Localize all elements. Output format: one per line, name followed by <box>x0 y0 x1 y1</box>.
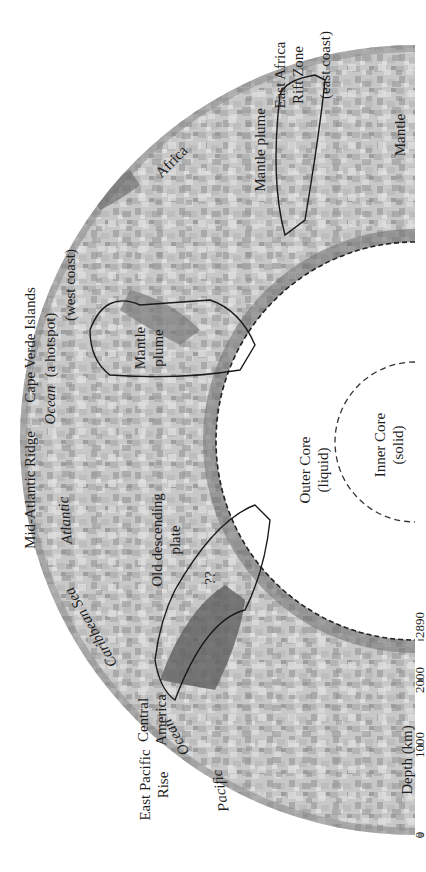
mantle-label: Mantle <box>392 113 408 156</box>
west-coast-label: (west coast) <box>62 249 79 321</box>
cape-verde-label-2: (a hotspot) <box>42 313 59 378</box>
depth-tick-0: 0 <box>412 832 426 839</box>
old-plate-label-1: Old descending <box>149 493 165 587</box>
atlantic-plume-label-1: Mantle <box>132 326 148 369</box>
depth-tick-1000: 1000 <box>412 732 426 758</box>
depth-tick-2000: 2000 <box>412 667 426 693</box>
outer-core-sub: (liquid) <box>315 448 332 493</box>
mid-atlantic-label: Mid-Atlantic Ridge <box>22 431 38 549</box>
caribbean-label: Caribbean Sea <box>61 585 120 671</box>
atlantic-label: Atlantic <box>55 496 75 546</box>
atlantic-plume-label-2: plume <box>150 329 166 367</box>
east-africa-label-2: Rift Zone <box>290 46 306 104</box>
central-america-label-1: Central <box>135 698 151 742</box>
east-pacific-label-2: Rise <box>155 771 171 798</box>
africa-plume-label: Mantle plume <box>252 108 268 192</box>
outer-core-label: Outer Core <box>297 436 313 503</box>
old-plate-label-2: plate <box>167 525 183 554</box>
cape-verde-label-1: Cape Verde Islands <box>22 287 38 403</box>
depth-tick-2890: 2890 <box>412 612 426 638</box>
inner-core-sub: (solid) <box>390 425 407 464</box>
east-africa-label-1: East Africa <box>272 41 288 108</box>
question-marks: ?? <box>202 571 218 585</box>
africa-label: Africa <box>152 142 191 181</box>
pacific-label: Pacific <box>208 768 231 814</box>
east-coast-label: (east coast) <box>317 31 334 99</box>
ocean-atlantic-label: Ocean <box>42 385 58 424</box>
inner-core-label: Inner Core <box>372 412 388 477</box>
central-america-label-2: America <box>153 694 169 746</box>
east-pacific-label-1: East Pacific <box>137 749 153 821</box>
